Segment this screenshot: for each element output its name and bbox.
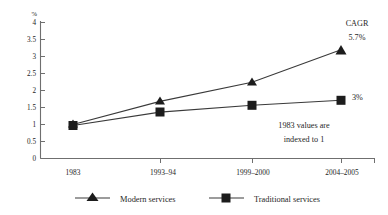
y-axis-ticks: 4 3.5 3 2.5 2 1.5 1 0.5 0 <box>27 19 45 163</box>
legend-label-traditional-services: Traditional services <box>254 195 320 204</box>
x-tick-label-2004-2005: 2004–2005 <box>325 168 359 177</box>
y-tick-label-2: 2 <box>32 87 36 95</box>
x-tick-label-1999-2000: 1999–2000 <box>236 168 270 177</box>
y-axis-unit-label: % <box>32 10 38 17</box>
annotation-traditional-cagr: 3% <box>352 93 363 102</box>
square-marker-icon <box>222 194 231 203</box>
legend: Modern services Traditional services <box>75 193 320 204</box>
y-tick-label-1-5: 1.5 <box>27 104 36 112</box>
legend-item-modern-services[interactable]: Modern services <box>75 193 176 204</box>
y-tick-label-1: 1 <box>32 121 36 129</box>
data-point-modern-2004-2005 <box>336 45 347 55</box>
x-tick-label-1993-94: 1993–94 <box>150 168 176 177</box>
data-point-traditional-1983 <box>69 121 78 130</box>
annotation-index-note-line2: indexed to 1 <box>284 135 324 144</box>
y-tick-label-0-5: 0.5 <box>27 138 36 146</box>
legend-label-modern-services: Modern services <box>120 195 176 204</box>
annotation-cagr-header: CAGR <box>346 19 369 28</box>
y-tick-label-4: 4 <box>32 19 36 27</box>
y-tick-label-0: 0 <box>32 155 36 163</box>
legend-item-traditional-services[interactable]: Traditional services <box>209 194 320 204</box>
data-point-traditional-2004-2005 <box>337 96 346 105</box>
annotation-index-note-line1: 1983 values are <box>278 121 330 130</box>
data-point-traditional-1993-94 <box>156 108 165 117</box>
series-line-modern-services <box>73 50 341 125</box>
annotation-modern-cagr: 5.7% <box>348 33 365 42</box>
triangle-marker-icon <box>87 193 99 202</box>
y-tick-label-3: 3 <box>32 53 36 61</box>
y-tick-label-3-5: 3.5 <box>27 36 36 44</box>
y-tick-label-2-5: 2.5 <box>27 70 36 78</box>
chart-container: % 4 3.5 3 2.5 2 1.5 1 0.5 0 1983 1993–94… <box>0 0 388 215</box>
x-tick-label-1983: 1983 <box>66 168 81 177</box>
x-axis-ticks: 1983 1993–94 1999–2000 2004–2005 <box>66 159 375 178</box>
data-point-traditional-1999-2000 <box>248 101 257 110</box>
line-chart: % 4 3.5 3 2.5 2 1.5 1 0.5 0 1983 1993–94… <box>0 0 388 215</box>
